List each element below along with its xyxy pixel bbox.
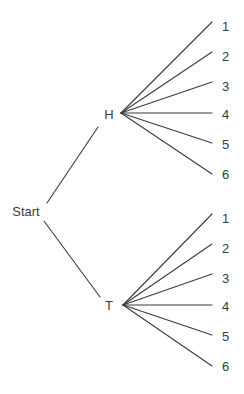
leaf-label-t-2: 2 [222,242,229,255]
tails-branch-edges-group [123,214,212,366]
leaf-label-t-3: 3 [222,272,229,285]
edge-h-to-6 [121,113,212,174]
leaf-label-h-6: 6 [222,168,229,181]
leaf-label-h-4: 4 [222,108,229,121]
leaf-label-h-3: 3 [222,80,229,93]
leaf-label-h-5: 5 [222,138,229,151]
edge-start-to-h [47,127,98,203]
leaf-label-h-1: 1 [222,20,229,33]
node-tails-label: T [105,299,113,312]
root-edges-group [44,127,100,297]
edge-start-to-t [44,221,100,297]
edge-h-to-1 [121,22,212,113]
leaf-label-t-4: 4 [222,300,229,313]
tree-edges-layer [0,0,244,394]
leaf-label-t-1: 1 [222,212,229,225]
leaf-label-t-6: 6 [222,360,229,373]
edge-t-to-5 [123,305,212,335]
leaf-label-h-2: 2 [222,50,229,63]
node-start-label: Start [12,205,39,218]
heads-branch-edges-group [121,22,212,174]
edge-t-to-1 [123,214,212,305]
edge-t-to-3 [123,274,212,305]
node-heads-label: H [104,108,113,121]
tree-diagram-canvas: Start H T 123456 123456 [0,0,244,394]
leaf-label-t-5: 5 [222,330,229,343]
edge-t-to-2 [123,244,212,305]
edge-h-to-5 [121,113,212,143]
edge-t-to-6 [123,305,212,366]
edge-h-to-2 [121,52,212,113]
edge-h-to-3 [121,82,212,113]
